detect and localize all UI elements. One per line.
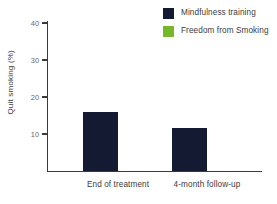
category-labels: End of treatment 4-month follow-up [47,180,262,194]
legend-item-mindfulness-training: Mindfulness training [163,8,269,19]
bar [172,128,207,170]
y-tick-label: 20 [31,92,39,101]
legend-label: Mindfulness training [181,9,256,17]
y-tick-label: 30 [31,55,39,64]
y-tick-label: 10 [31,129,39,138]
square-swatch-icon [163,8,174,19]
plot-area: 40 30 20 10 [47,21,262,172]
bars-layer [47,21,262,172]
category-label-end-of-treatment: End of treatment [87,180,149,189]
category-label-4-month-follow-up: 4-month follow-up [174,180,241,189]
bar [83,112,118,171]
y-axis-title: Quit smoking (%) [6,50,15,115]
bar-chart: Mindfulness training Freedom from Smokin… [0,0,277,204]
y-tick-label: 40 [31,18,39,27]
